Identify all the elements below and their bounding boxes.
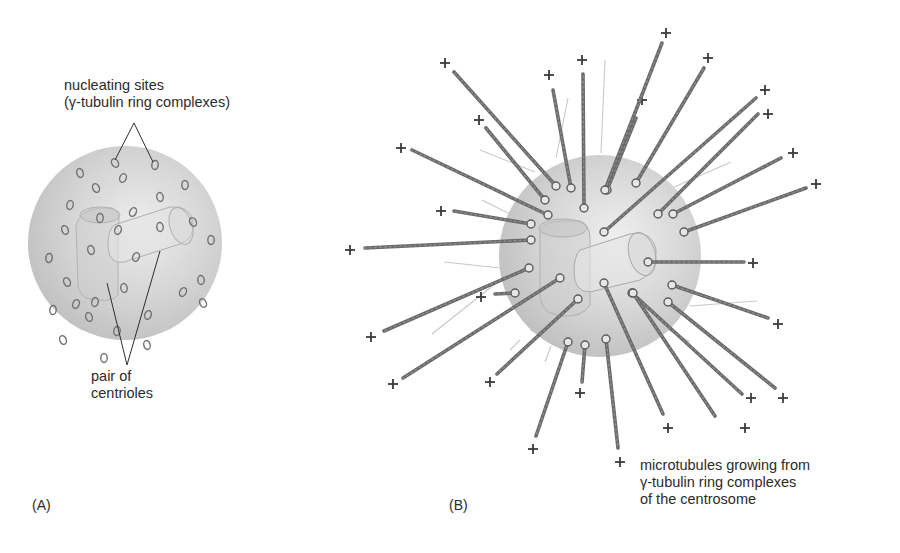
nucleating-sites-line-2: (γ-tubulin ring complexes)	[64, 94, 230, 111]
plus-end-icon	[440, 58, 450, 68]
ring-complex-icon	[556, 274, 564, 282]
ring-complex-icon	[600, 228, 608, 236]
plus-end-icon	[788, 148, 798, 158]
ring-complex-icon	[632, 179, 640, 187]
plus-end-icon	[575, 388, 585, 398]
caption-line-2: γ-tubulin ring complexes	[640, 474, 810, 491]
faint-microtubule	[510, 340, 520, 350]
nucleating-site-ring	[143, 340, 151, 350]
caption-line-1: microtubules growing from	[640, 457, 810, 474]
ring-complex-icon	[601, 186, 609, 194]
plus-end-icon	[703, 53, 713, 63]
plus-end-icon	[811, 179, 821, 189]
ring-complex-icon	[525, 264, 533, 272]
microtubule	[664, 298, 788, 403]
plus-end-icon	[760, 85, 770, 95]
ring-complex-icon	[527, 220, 535, 228]
microtubule	[528, 338, 572, 454]
ring-complex-icon	[644, 258, 652, 266]
microtubule	[366, 264, 533, 342]
nucleating-site-ring	[58, 335, 67, 346]
plus-end-icon	[663, 423, 673, 433]
plus-end-icon	[746, 393, 756, 403]
ring-complex-icon	[664, 298, 672, 306]
nucleating-site-ring	[101, 354, 107, 363]
ring-complex-icon	[668, 281, 676, 289]
ring-complex-icon	[654, 210, 662, 218]
faint-microtubule	[545, 346, 551, 362]
microtubules-caption: microtubules growing from γ-tubulin ring…	[640, 457, 810, 508]
ring-complex-icon	[564, 338, 572, 346]
plus-end-icon	[544, 70, 554, 80]
ring-complex-icon	[544, 211, 552, 219]
centrioles-label: pair of centrioles	[91, 368, 153, 402]
panel-a	[28, 123, 222, 365]
nucleating-sites-line-1: nucleating sites	[64, 77, 230, 94]
centrioles-line-1: pair of	[91, 368, 153, 385]
ring-complex-icon	[600, 279, 608, 287]
plus-end-icon	[388, 379, 398, 389]
plus-end-icon	[366, 332, 376, 342]
ring-complex-icon	[580, 204, 588, 212]
plus-end-icon	[396, 143, 406, 153]
plus-end-icon	[528, 444, 538, 454]
centrioles-line-2: centrioles	[91, 385, 153, 402]
plus-end-icon	[740, 423, 750, 433]
ring-complex-icon	[669, 210, 677, 218]
panel-a-tag: (A)	[32, 497, 51, 513]
ring-complex-icon	[511, 289, 519, 297]
plus-end-icon	[661, 28, 671, 38]
ring-complex-icon	[581, 341, 589, 349]
plus-end-icon	[577, 55, 587, 65]
ring-complex-icon	[541, 196, 549, 204]
plus-end-icon	[485, 377, 495, 387]
ring-complex-icon	[567, 184, 575, 192]
panel-b-tag: (B)	[449, 497, 468, 513]
ring-complex-icon	[552, 182, 560, 190]
plus-end-icon	[345, 245, 355, 255]
plus-end-icon	[476, 292, 486, 302]
plus-end-icon	[615, 457, 625, 467]
plus-end-icon	[748, 258, 758, 268]
microtubule	[680, 179, 821, 236]
ring-complex-icon	[527, 236, 535, 244]
microtubule	[632, 53, 713, 187]
ring-complex-icon	[680, 228, 688, 236]
microtubule	[474, 115, 549, 204]
ring-complex-icon	[574, 295, 582, 303]
faint-microtubule	[601, 60, 605, 153]
plus-end-icon	[436, 206, 446, 216]
faint-microtubule	[482, 200, 510, 214]
nucleating-sites-label: nucleating sites (γ-tubulin ring complex…	[64, 77, 230, 111]
panel-b	[345, 28, 821, 467]
ring-complex-icon	[602, 335, 610, 343]
plus-end-icon	[763, 109, 773, 119]
plus-end-icon	[778, 393, 788, 403]
plus-end-icon	[474, 115, 484, 125]
ring-complex-icon	[629, 289, 637, 297]
plus-end-icon	[773, 319, 783, 329]
caption-line-3: of the centrosome	[640, 491, 810, 508]
